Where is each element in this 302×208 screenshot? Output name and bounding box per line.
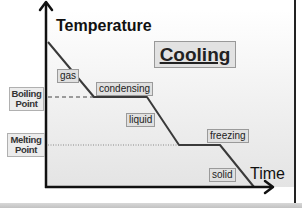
- boiling-point-label: Boiling Point: [9, 87, 44, 111]
- melting-point-label: Melting Point: [7, 133, 45, 157]
- diagram-title-text: Cooling: [160, 44, 231, 65]
- y-axis-label: Temperature: [56, 17, 152, 35]
- phase-label-condensing: condensing: [96, 82, 153, 96]
- phase-label-liquid: liquid: [126, 113, 155, 127]
- x-axis-label: Time: [250, 165, 285, 183]
- melting-label-line2: Point: [9, 145, 43, 155]
- boiling-label-line2: Point: [11, 99, 42, 109]
- phase-label-solid: solid: [209, 168, 236, 182]
- phase-label-gas: gas: [57, 69, 79, 83]
- phase-label-freezing: freezing: [207, 129, 249, 143]
- diagram-title: Cooling: [154, 41, 236, 68]
